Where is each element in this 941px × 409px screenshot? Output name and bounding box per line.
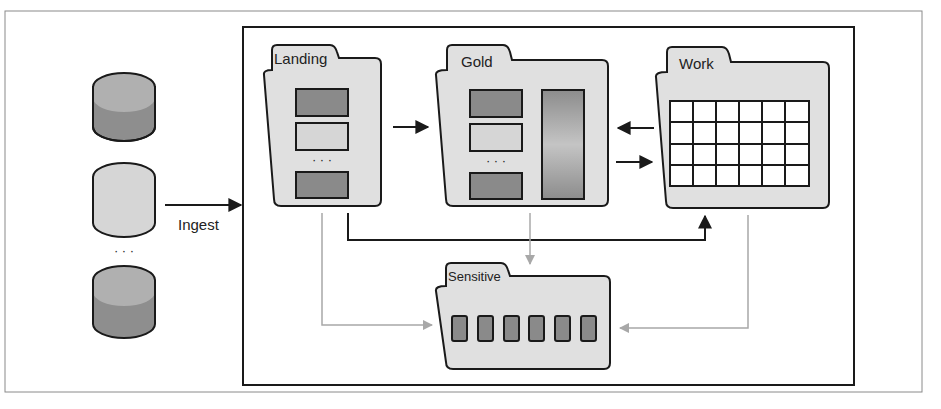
gold-item-light (470, 124, 522, 151)
gold-zone-folder: Gold · · · (436, 45, 608, 206)
gold-item-dark (470, 90, 522, 117)
landing-item-dark (296, 89, 348, 116)
sensitive-zone-folder: Sensitive (436, 263, 610, 369)
sensitive-cell (581, 316, 596, 341)
sensitive-cell (452, 316, 467, 341)
source-database-icon (93, 266, 155, 338)
landing-item-dark (296, 172, 348, 198)
work-table-grid (670, 101, 809, 186)
gold-label: Gold (461, 53, 493, 70)
sensitive-cell (504, 316, 519, 341)
sensitive-label: Sensitive (448, 269, 501, 284)
ingest-label: Ingest (178, 216, 220, 233)
work-to-sensitive-arrow (620, 215, 748, 328)
gold-ellipsis: · · · (486, 153, 506, 168)
landing-item-light (296, 123, 348, 150)
landing-zone-folder: Landing · · · (264, 45, 381, 206)
landing-ellipsis: · · · (312, 152, 332, 167)
work-label: Work (679, 55, 714, 72)
gold-gradient-column (542, 90, 584, 199)
landing-label: Landing (274, 50, 327, 67)
gold-item-dark (470, 173, 522, 199)
landing-to-work-arrow (348, 213, 705, 240)
source-database-icon (93, 163, 155, 237)
work-zone-folder: Work (656, 47, 829, 208)
source-database-icon (93, 73, 155, 141)
sensitive-cell (555, 316, 570, 341)
data-lake-diagram: · · · Ingest Landing · · · Gold · · · Wo… (0, 0, 941, 409)
sources-ellipsis: · · · (114, 243, 134, 258)
sensitive-cell (478, 316, 493, 341)
sensitive-cell (529, 316, 544, 341)
landing-to-sensitive-arrow (322, 213, 432, 325)
